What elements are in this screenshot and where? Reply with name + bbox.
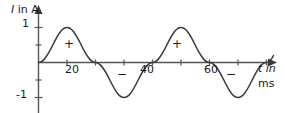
x-axis-title: t in — [258, 63, 276, 75]
x-axis-unit-label: ms — [258, 78, 274, 90]
polarity-marker-minus-first: − — [117, 68, 127, 81]
y-axis-title: I in A — [11, 4, 39, 16]
y-tick-label-1: 1 — [22, 18, 29, 30]
polarity-marker-minus-second: − — [226, 68, 236, 81]
polarity-marker-plus-first: + — [64, 38, 74, 51]
plot-area — [0, 0, 285, 113]
y-axis-title-unit: in A — [14, 3, 39, 16]
current-time-graph: I in A t in ms 1 -1 20 40 60 + − + − — [0, 0, 285, 113]
polarity-marker-plus-second: + — [172, 38, 182, 51]
y-tick-label-minus1: -1 — [16, 89, 27, 101]
x-tick-label-20: 20 — [65, 64, 79, 76]
x-tick-label-60: 60 — [204, 64, 218, 76]
x-tick-label-40: 40 — [140, 64, 154, 76]
